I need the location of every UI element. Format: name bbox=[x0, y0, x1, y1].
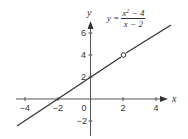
origin-label: 0 bbox=[81, 103, 86, 113]
y-axis-label: y bbox=[86, 7, 92, 18]
equation-lhs: y = bbox=[107, 13, 119, 23]
function-graph: −4 −2 2 4 0 6 4 2 −2 x y bbox=[0, 0, 188, 139]
y-tick-label: 6 bbox=[81, 28, 86, 38]
x-tick-label: 2 bbox=[120, 103, 125, 113]
x-tick-label: −4 bbox=[20, 103, 30, 113]
x-tick-label: 4 bbox=[153, 103, 158, 113]
y-tick-label: 4 bbox=[81, 50, 86, 60]
function-line bbox=[126, 25, 171, 53]
y-axis-arrow-icon bbox=[88, 21, 94, 29]
equation-denominator: x − 2 bbox=[124, 19, 143, 29]
y-tick-label: −2 bbox=[77, 116, 87, 126]
equation-numerator: x2 − 4 bbox=[121, 6, 145, 19]
equation-label: y = x2 − 4 x − 2 bbox=[107, 6, 145, 29]
open-circle-marker bbox=[121, 53, 126, 58]
x-axis-arrow-icon bbox=[160, 96, 168, 102]
equation-fraction: x2 − 4 x − 2 bbox=[121, 6, 145, 29]
function-line bbox=[17, 57, 121, 126]
x-tick-label: −2 bbox=[53, 103, 63, 113]
x-axis-label: x bbox=[171, 93, 177, 104]
